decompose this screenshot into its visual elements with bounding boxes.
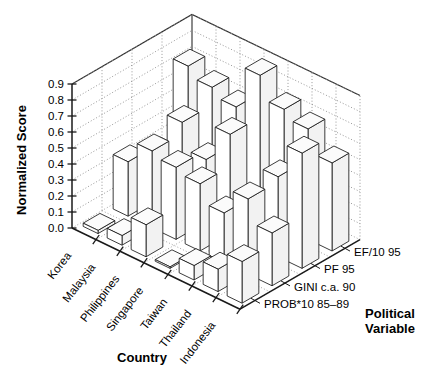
y-axis-tick-label: 0.7 <box>48 110 64 122</box>
y-axis-tick-label: 0.9 <box>48 78 64 90</box>
bar-front-face <box>287 146 302 268</box>
chart-canvas: 0.00.10.20.30.40.50.60.70.80.9 KoreaMala… <box>0 0 423 381</box>
bar-3d <box>257 216 289 286</box>
series-label: EF/10 95 <box>354 246 401 258</box>
x-axis-tick <box>189 281 195 290</box>
z-axis-title-line1: Political <box>365 306 415 321</box>
y-axis-tick-label: 0.6 <box>48 126 64 138</box>
x-axis-category-label: Taiwan <box>138 296 170 332</box>
x-axis-tick <box>93 235 99 244</box>
bar-front-face <box>185 177 200 251</box>
bar-3d <box>287 136 319 268</box>
bar-side-face <box>332 153 349 251</box>
bar-front-face <box>317 156 332 251</box>
chart-3d-bar: 0.00.10.20.30.40.50.60.70.80.9 KoreaMala… <box>0 0 423 381</box>
x-axis-tick <box>237 305 243 314</box>
bar-front-face <box>113 155 128 217</box>
y-axis-tick-label: 0.0 <box>48 222 64 234</box>
bar-3d <box>131 208 163 257</box>
x-axis-category-label: Korea <box>45 249 74 281</box>
bar-3d <box>317 146 349 251</box>
x-axis-tick <box>213 293 219 302</box>
z-axis-title-line2: Variable <box>365 321 415 336</box>
y-axis-tick-label: 0.3 <box>48 174 64 186</box>
y-axis-tick-label: 0.1 <box>48 206 64 218</box>
y-axis-tick-label: 0.5 <box>48 142 64 154</box>
x-axis-tick <box>141 258 147 267</box>
y-axis-tick-label: 0.4 <box>48 158 65 170</box>
x-axis-tick <box>165 270 171 279</box>
x-axis-title: Country <box>117 350 168 365</box>
series-label: PROB*10 85–89 <box>264 298 349 310</box>
series-label: GINI c.a. 90 <box>294 281 355 293</box>
bar-front-face <box>257 226 272 286</box>
x-axis-tick <box>117 247 123 256</box>
bar-front-face <box>227 254 242 303</box>
bar-side-face <box>272 223 289 286</box>
bar-front-face <box>161 160 176 239</box>
y-axis-title: Normalized Score <box>14 105 29 215</box>
y-axis-tick-label: 0.2 <box>48 190 64 202</box>
bar-3d <box>227 245 259 304</box>
y-axis-tick-label: 0.8 <box>48 94 64 106</box>
series-label: PF 95 <box>324 263 355 275</box>
bar-front-face <box>131 218 146 257</box>
bar-side-face <box>302 143 319 268</box>
